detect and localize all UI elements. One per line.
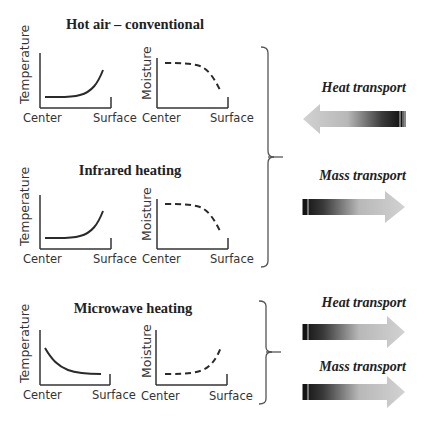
mass-transport-arrow-right-icon — [0, 0, 426, 427]
